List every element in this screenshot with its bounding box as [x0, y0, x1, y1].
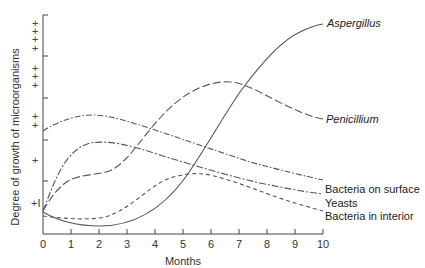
x-tick-label: 6	[208, 238, 214, 250]
x-tick-label: 0	[40, 238, 46, 250]
series-yeasts	[43, 142, 323, 211]
label-bacteria-interior: Bacteria in interior	[325, 210, 414, 222]
plus-mark: +	[32, 79, 38, 91]
y-plus-labels: + + + + + + + + + + +I	[31, 17, 40, 209]
x-tick-labels: 0 1 2 3 4 5 6 7 8 9 10	[40, 238, 329, 250]
series-penicillium	[43, 82, 323, 211]
x-tick-label: 3	[124, 238, 130, 250]
plus-mark: +	[32, 42, 38, 54]
x-tick-label: 1	[68, 238, 74, 250]
label-bacteria-surface: Bacteria on surface	[325, 183, 420, 195]
axes	[43, 15, 323, 234]
growth-chart: + + + + + + + + + + +I 0 1 2 3 4 5 6 7 8…	[0, 0, 425, 268]
y-ticks	[43, 56, 48, 181]
label-penicillium: Penicillium	[326, 113, 379, 125]
x-tick-label: 5	[180, 238, 186, 250]
x-tick-label: 10	[317, 238, 329, 250]
series-aspergillus	[43, 24, 323, 226]
x-axis-title: Months	[165, 255, 202, 267]
plus-mark: +	[32, 154, 38, 166]
label-aspergillus: Aspergillus	[326, 17, 381, 29]
x-tick-label: 2	[96, 238, 102, 250]
y-axis-title: Degree of growth of microorganisms	[9, 48, 21, 226]
x-tick-label: 9	[292, 238, 298, 250]
x-tick-label: 8	[264, 238, 270, 250]
x-ticks	[71, 229, 323, 234]
series-labels: Aspergillus Penicillium Bacteria on surf…	[325, 17, 420, 222]
plus-mark: +	[32, 119, 38, 131]
series-bacteria-surface	[43, 115, 323, 180]
x-tick-label: 7	[236, 238, 242, 250]
plus-one-mark: +I	[31, 197, 40, 209]
label-yeasts: Yeasts	[325, 197, 358, 209]
series-lines	[43, 24, 323, 226]
x-tick-label: 4	[152, 238, 158, 250]
